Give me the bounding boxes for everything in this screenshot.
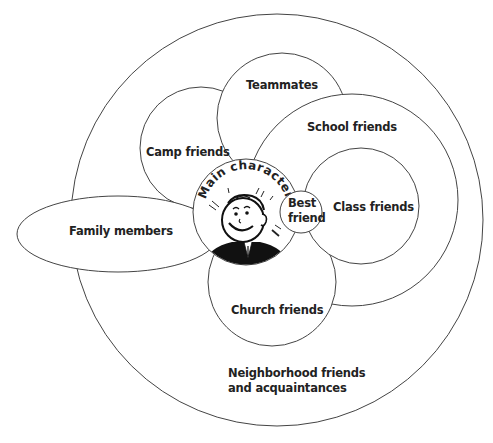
best-friend-label: Best friend bbox=[288, 196, 326, 226]
best-friend-label-line2: friend bbox=[288, 211, 326, 226]
church-friends-label: Church friends bbox=[231, 303, 323, 318]
neighborhood-label-line2: and acquaintances bbox=[228, 381, 366, 396]
neighborhood-label-line1: Neighborhood friends bbox=[228, 366, 366, 381]
family-members-label: Family members bbox=[69, 224, 173, 239]
class-friends-label: Class friends bbox=[333, 200, 414, 215]
best-friend-label-line1: Best bbox=[288, 196, 326, 211]
neighborhood-label: Neighborhood friends and acquaintances bbox=[228, 366, 366, 396]
teammates-label: Teammates bbox=[246, 78, 318, 93]
camp-friends-label: Camp friends bbox=[146, 145, 230, 160]
school-friends-label: School friends bbox=[307, 120, 397, 135]
